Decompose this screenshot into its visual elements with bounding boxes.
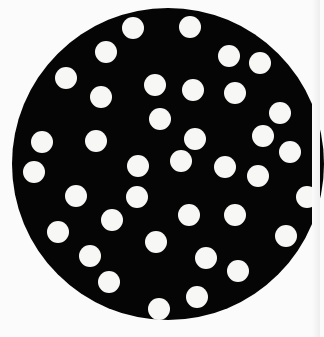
white-dot — [184, 128, 206, 150]
white-dot — [178, 204, 200, 226]
white-dot — [170, 150, 192, 172]
white-dot — [186, 286, 208, 308]
white-dot — [47, 221, 69, 243]
paper-edge-shadow — [312, 0, 320, 337]
white-dot — [279, 141, 301, 163]
white-dot — [224, 204, 246, 226]
white-dot — [144, 74, 166, 96]
white-dot — [127, 155, 149, 177]
white-dot — [247, 165, 269, 187]
white-dot — [145, 231, 167, 253]
white-dot — [149, 108, 171, 130]
white-dot — [95, 41, 117, 63]
white-dot — [23, 161, 45, 183]
white-dot — [148, 298, 170, 320]
white-dot — [122, 17, 144, 39]
white-dot — [269, 102, 291, 124]
white-dot — [55, 67, 77, 89]
white-dot — [214, 156, 236, 178]
white-dot — [90, 86, 112, 108]
white-dot — [275, 225, 297, 247]
white-dot — [98, 271, 120, 293]
white-dot — [31, 131, 53, 153]
white-dot — [85, 130, 107, 152]
white-dot — [218, 45, 240, 67]
white-dot — [101, 209, 123, 231]
white-dot — [182, 79, 204, 101]
white-dot — [179, 16, 201, 38]
white-dot — [126, 186, 148, 208]
white-dot — [195, 247, 217, 269]
white-dot — [65, 185, 87, 207]
white-dot — [252, 125, 274, 147]
black-disc — [12, 8, 324, 320]
white-dot — [224, 82, 246, 104]
white-dot — [227, 260, 249, 282]
white-dot — [249, 52, 271, 74]
white-dot — [79, 245, 101, 267]
